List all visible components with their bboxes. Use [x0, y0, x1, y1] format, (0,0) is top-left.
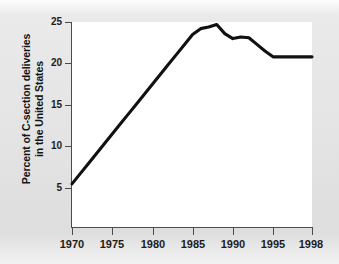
data-series-layer — [0, 0, 339, 264]
line-chart-figure: Percent of C-section deliveries in the U… — [0, 0, 339, 264]
chart-screenshot: Percent of C-section deliveries in the U… — [0, 0, 339, 264]
series-line-csection — [72, 24, 312, 183]
